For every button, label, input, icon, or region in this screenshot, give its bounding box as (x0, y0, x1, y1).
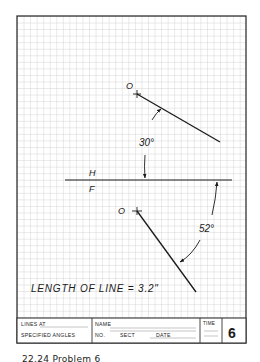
no-label: NO. (95, 332, 105, 338)
date-label: DATE (156, 332, 171, 338)
drawing-sheet: O 30° H F O 52° LENGTH OF LINE = 3.2" LI… (0, 0, 260, 362)
angle-30-label: 30° (139, 137, 154, 148)
angle-30-arrow-lower (145, 155, 146, 178)
top-point-label: O (126, 81, 133, 91)
bottom-point-label: O (118, 206, 125, 216)
fold-label-h: H (89, 168, 96, 178)
name-label: NAME (95, 321, 111, 327)
length-note: LENGTH OF LINE = 3.2" (31, 283, 159, 294)
angle-52-label: 52° (199, 223, 214, 234)
problem-number: 6 (228, 325, 236, 341)
time-label: TIME (203, 321, 215, 326)
figure-caption: 22.24 Problem 6 (22, 354, 101, 362)
graph-grid (17, 16, 246, 318)
fold-label-f: F (89, 184, 95, 194)
sect-label: SECT (120, 332, 136, 338)
title-line-2: SPECIFIED ANGLES (21, 332, 76, 338)
title-line-1: LINES AT (21, 321, 46, 327)
